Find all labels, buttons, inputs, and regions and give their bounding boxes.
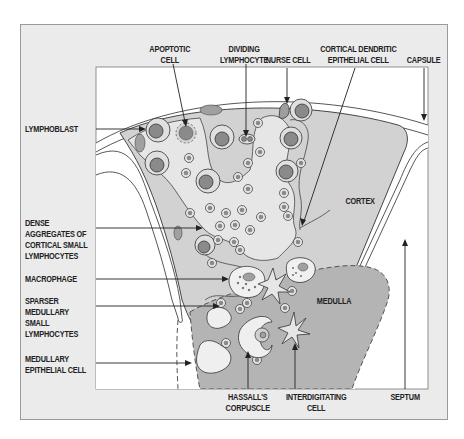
label-nurse-cell: NURSE CELL: [266, 55, 311, 66]
medulla-label: MEDULLA: [317, 296, 352, 307]
dividing-lymphocyte: [239, 134, 255, 144]
label-lymphoblast: LYMPHOBLAST: [25, 124, 78, 135]
label-septum: SEPTUM: [390, 392, 419, 403]
label-interdigitating-cell: INTERDIGITATING CELL: [286, 392, 347, 414]
label-dividing-lymphocyte: DIVIDING LYMPHOCYTE: [220, 44, 268, 66]
cortex-label: CORTEX: [345, 196, 374, 207]
label-capsule: CAPSULE: [407, 55, 441, 66]
label-macrophage: MACROPHAGE: [25, 274, 77, 285]
label-apoptotic-cell: APOPTOTIC CELL: [149, 44, 190, 66]
label-sparser-medullary: SPARSER MEDULLARY SMALL LYMPHOCYTES: [25, 296, 78, 340]
label-medullary-epithelial-cell: MEDULLARY EPITHELIAL CELL: [25, 354, 86, 376]
label-hassalls-corpuscle: HASSALL'S CORPUSCLE: [226, 392, 270, 414]
label-cortical-dendritic-epithelial-cell: CORTICAL DENDRITIC EPITHELIAL CELL: [320, 44, 396, 66]
label-dense-aggregates: DENSE AGGREGATES OF CORTICAL SMALL LYMPH…: [25, 218, 87, 262]
